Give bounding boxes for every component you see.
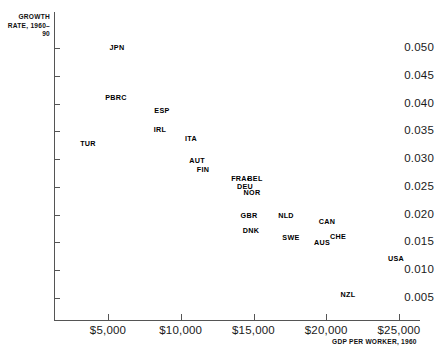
y-tick-label: 0.030 (388, 153, 434, 164)
data-point-label: CHE (330, 233, 346, 241)
y-tick-label: 0.020 (388, 209, 434, 220)
x-tick (254, 314, 255, 320)
y-tick (54, 48, 60, 49)
data-point-label: FIN (197, 166, 209, 174)
data-point-label: JPN (110, 44, 125, 52)
data-point-label: IRL (154, 126, 166, 134)
y-axis-title: GROWTH RATE, 1960–90 (2, 13, 50, 39)
x-tick (108, 314, 109, 320)
y-tick-label: 0.035 (388, 125, 434, 136)
data-point-label: CAN (319, 218, 335, 226)
data-point-label: ITA (185, 135, 197, 143)
y-tick-label: 0.015 (388, 236, 434, 247)
y-tick (54, 270, 60, 271)
data-point-label: PBRC (105, 94, 127, 102)
data-point-label: NLD (278, 212, 294, 220)
data-point-label: TUR (80, 140, 96, 148)
y-tick (54, 215, 60, 216)
y-tick (54, 104, 60, 105)
data-point-label: SWE (282, 234, 299, 242)
y-tick-label: 0.040 (388, 98, 434, 109)
x-axis-line (54, 320, 420, 321)
y-tick-label: 0.045 (388, 70, 434, 81)
y-axis-line (54, 12, 55, 321)
data-point-label: DNK (243, 227, 259, 235)
y-tick (54, 76, 60, 77)
x-tick (399, 314, 400, 320)
data-point-label: ESP (154, 107, 169, 115)
data-point-label: NZL (341, 291, 356, 299)
y-tick (54, 131, 60, 132)
y-tick-label: 0.025 (388, 181, 434, 192)
y-tick-label: 0.050 (388, 42, 434, 53)
x-axis-title: GDP PER WORKER, 1960 (332, 338, 417, 345)
y-tick (54, 242, 60, 243)
y-tick (54, 159, 60, 160)
y-tick (54, 187, 60, 188)
data-point-label: AUT (189, 157, 205, 165)
y-tick-label: 0.010 (388, 264, 434, 275)
y-tick-label: 0.005 (388, 292, 434, 303)
y-tick (54, 298, 60, 299)
data-point-label: NOR (244, 189, 261, 197)
x-tick (181, 314, 182, 320)
x-tick (326, 314, 327, 320)
data-point-label: USA (388, 255, 404, 263)
data-point-label: AUS (314, 239, 330, 247)
x-tick-label: $25,000 (354, 324, 439, 336)
data-point-label: GBR (241, 212, 258, 220)
